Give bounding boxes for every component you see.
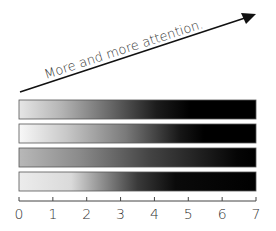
axis-tick-label: 5 bbox=[184, 206, 193, 222]
bar-4 bbox=[19, 172, 256, 191]
axis-tick-label: 2 bbox=[82, 206, 91, 222]
x-axis: 01234567 bbox=[15, 197, 261, 222]
axis-tick-label: 6 bbox=[218, 206, 227, 222]
axis-tick-label: 1 bbox=[48, 206, 57, 222]
gradient-bars bbox=[19, 100, 256, 191]
bar-2 bbox=[19, 124, 256, 143]
axis-tick-label: 0 bbox=[15, 206, 24, 222]
axis-tick-label: 4 bbox=[150, 206, 159, 222]
attention-diagram: More and more attention. 01234567 bbox=[0, 0, 276, 231]
axis-tick-label: 7 bbox=[252, 206, 261, 222]
axis-tick-label: 3 bbox=[116, 206, 125, 222]
attention-arrow-line bbox=[20, 17, 248, 92]
annotation-text: More and more attention. bbox=[42, 16, 205, 82]
bar-3 bbox=[19, 148, 256, 167]
bar-1 bbox=[19, 100, 256, 119]
